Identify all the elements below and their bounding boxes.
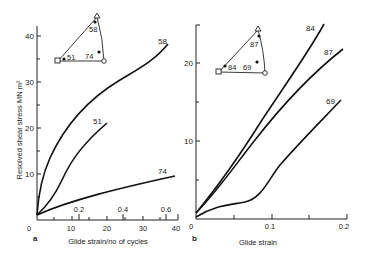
a-xtick-20: 20 [103, 224, 111, 233]
inset-b-84: 84 [228, 63, 236, 72]
curve-84 [196, 24, 324, 213]
b-xtick-0.1: 0.1 [265, 222, 275, 231]
panel-label-b: b [192, 234, 197, 243]
inset-a-51: 51 [67, 53, 75, 62]
panel-label-a: a [33, 234, 38, 243]
curve-69 [196, 100, 341, 217]
b-x-axis-label: Glide strain [239, 238, 277, 247]
label-84: 84 [306, 24, 315, 33]
b-xtick-0: 0 [189, 222, 193, 231]
a-ytick-20: 20 [25, 124, 34, 133]
a-xtick-0: 0 [27, 224, 31, 233]
b-ytick-20: 20 [184, 59, 193, 68]
panel-a: 40 30 20 10 0.2 0.4 0.6 0 10 20 30 40 a … [15, 13, 180, 246]
a-ytick-10: 10 [25, 170, 34, 179]
a-xtick-40: 40 [172, 224, 180, 233]
a-ytick-40: 40 [25, 32, 34, 41]
panel-b: 20 10 0 0.1 0.2 b Glide strain 84 87 69 … [184, 24, 349, 247]
inset-a-74: 74 [85, 52, 93, 61]
figure: 40 30 20 10 0.2 0.4 0.6 0 10 20 30 40 a … [0, 0, 366, 258]
label-51: 51 [93, 117, 102, 126]
a-xtick-10: 10 [67, 224, 75, 233]
a-ytick-30: 30 [25, 78, 34, 87]
a-x-axis-label: Glide strain/no of cycles [68, 237, 148, 246]
curve-74 [37, 176, 175, 215]
stereographic-triangle-a: 58 51 74 [55, 13, 106, 63]
label-74: 74 [158, 167, 167, 176]
stereographic-triangle-b: 87 84 69 [216, 26, 267, 75]
inset-b-87: 87 [250, 40, 258, 49]
a-strain-tick-0.4: 0.4 [118, 205, 128, 214]
b-ytick-10: 10 [184, 137, 193, 146]
a-strain-tick-0.2: 0.2 [74, 205, 84, 214]
inset-a-58: 58 [89, 25, 97, 34]
label-69: 69 [326, 97, 335, 106]
a-y-axis-label: Resolved shear stress MN m² [15, 80, 24, 179]
a-xtick-30: 30 [139, 224, 147, 233]
b-xtick-0.2: 0.2 [339, 222, 349, 231]
label-58: 58 [158, 37, 167, 46]
label-87: 87 [324, 48, 333, 57]
a-strain-tick-0.6: 0.6 [161, 205, 171, 214]
inset-b-69: 69 [243, 63, 251, 72]
